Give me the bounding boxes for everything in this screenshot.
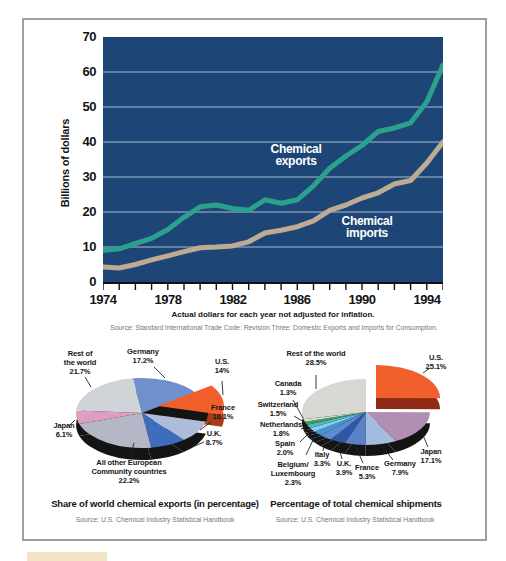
- pie-label-japan: Japan6.1%: [53, 422, 74, 440]
- pie-label-germany: Germany7.9%: [384, 460, 416, 478]
- plot-background: [103, 37, 443, 282]
- leader-line: [154, 367, 165, 378]
- series-label-1: Chemicalimports: [342, 214, 393, 240]
- pie-chart-exports: Germany17.2%U.S.14%France10.1%U.K.8.7%Al…: [30, 343, 260, 507]
- pie-label-netherlands: Netherlands1.8%: [260, 421, 302, 439]
- pie-label-uk: U.K.3.9%: [336, 460, 353, 478]
- pie-right-title: Percentage of total chemical shipments: [251, 498, 461, 509]
- y-tick-label: 10: [64, 239, 96, 254]
- leader-line: [222, 381, 223, 395]
- pie-label-rest: Rest of the world28.5%: [286, 350, 345, 368]
- leader-line: [85, 377, 91, 387]
- pie-slice-rest: [76, 378, 142, 413]
- pie-label-canada: Canada1.3%: [275, 380, 302, 398]
- x-tick-label: 1994: [405, 292, 449, 307]
- y-tick-label: 50: [64, 99, 96, 114]
- pie-label-rest: Rest ofthe world21.7%: [64, 350, 96, 377]
- y-tick-label: 0: [64, 274, 96, 289]
- line-chart-source: Source: Standard International Trade Cod…: [64, 324, 484, 331]
- y-tick-label: 60: [64, 64, 96, 79]
- y-tick-label: 20: [64, 204, 96, 219]
- pie-right-source: Source: U.S. Chemical Industry Statistic…: [250, 516, 460, 523]
- pie-label-us: U.S.25.1%: [426, 354, 447, 372]
- pie-chart-shipments: U.S.25.1%Japan17.1%Germany7.9%France5.3%…: [260, 343, 490, 507]
- pie-label-france: France5.3%: [355, 464, 379, 482]
- pie-label-italy: Italy3.3%: [314, 451, 331, 469]
- y-tick-label: 70: [64, 29, 96, 44]
- pie-left-source: Source: U.S. Chemical Industry Statistic…: [30, 516, 280, 523]
- pie-label-uk: U.K.8.7%: [206, 430, 223, 448]
- y-tick-label: 30: [64, 169, 96, 184]
- x-tick-label: 1986: [275, 292, 319, 307]
- y-tick-label: 40: [64, 134, 96, 149]
- pie-label-switzerland: Switzerland1.5%: [258, 401, 299, 419]
- pie-label-belgium-luxembourg: Belgium/Luxembourg2.3%: [271, 461, 315, 488]
- line-chart: ChemicalexportsChemicalimports: [103, 37, 443, 291]
- line-chart-caption: Actual dollars for each year not adjuste…: [103, 310, 443, 319]
- highlight-bar: [27, 552, 107, 561]
- x-tick-label: 1978: [146, 292, 190, 307]
- pie-left-title: Share of world chemical exports (in perc…: [30, 498, 280, 509]
- pie-label-japan: Japan17.1%: [420, 448, 441, 466]
- x-tick-label: 1990: [340, 292, 384, 307]
- figure-frame: Billions of dollars 010203040506070 Chem…: [22, 18, 487, 541]
- x-tick-label: 1974: [81, 292, 125, 307]
- pie-label-ec: All other EuropeanCommunity countries22.…: [91, 459, 166, 486]
- pie-label-spain: Spain2.0%: [275, 440, 295, 458]
- pie-label-us: U.S.14%: [215, 358, 230, 376]
- series-label-0: Chemicalexports: [271, 142, 322, 168]
- pie-label-france: France10.1%: [211, 404, 235, 422]
- x-tick-label: 1982: [211, 292, 255, 307]
- pie-label-germany: Germany17.2%: [127, 348, 159, 366]
